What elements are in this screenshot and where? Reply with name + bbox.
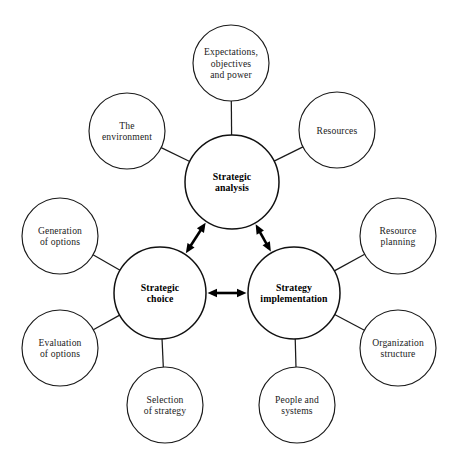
spoke-resources — [274, 147, 303, 161]
spoke-organization-structure — [335, 315, 365, 331]
node-strategy-implementation[interactable]: Strategyimplementation — [248, 247, 340, 339]
label-resource-planning: Resourceplanning — [380, 225, 417, 247]
node-selection-of-strategy[interactable]: Selectionof strategy — [127, 367, 203, 443]
label-people-and-systems: People andsystems — [275, 394, 319, 416]
spoke-the-environment — [161, 148, 190, 162]
connector-analysis-choice — [186, 223, 206, 253]
node-resource-planning[interactable]: Resourceplanning — [360, 198, 436, 274]
nodes-group: Expectations,objectivesand powerTheenvir… — [22, 25, 436, 443]
spoke-generation-of-options — [93, 255, 120, 270]
node-strategic-analysis[interactable]: Strategicanalysis — [185, 135, 279, 229]
connector-analysis-implementation — [256, 224, 271, 251]
arrow-head-end-choice-implementation — [237, 289, 247, 297]
label-strategic-analysis: Strategicanalysis — [213, 171, 252, 194]
label-selection-of-strategy: Selectionof strategy — [144, 394, 186, 416]
spoke-evaluation-of-options — [93, 315, 119, 330]
label-expectations-objectives-and-power: Expectations,objectivesand power — [204, 46, 258, 80]
node-generation-of-options[interactable]: Generationof options — [22, 198, 98, 274]
node-people-and-systems[interactable]: People andsystems — [259, 367, 335, 443]
node-the-environment[interactable]: Theenvironment — [89, 93, 165, 169]
node-resources[interactable]: Resources — [299, 92, 375, 168]
node-expectations-objectives-and-power[interactable]: Expectations,objectivesand power — [193, 25, 269, 101]
label-resources: Resources — [317, 125, 358, 136]
spoke-selection-of-strategy — [162, 339, 163, 367]
arrow-head-start-choice-implementation — [208, 289, 218, 297]
node-evaluation-of-options[interactable]: Evaluationof options — [22, 310, 98, 386]
label-generation-of-options: Generationof options — [38, 225, 82, 247]
label-evaluation-of-options: Evaluationof options — [38, 337, 81, 359]
strategy-model-diagram: Expectations,objectivesand powerTheenvir… — [0, 0, 457, 468]
node-organization-structure[interactable]: Organizationstructure — [360, 310, 436, 386]
spoke-people-and-systems — [295, 339, 296, 367]
diagram-canvas: Expectations,objectivesand powerTheenvir… — [0, 0, 457, 468]
connector-choice-implementation — [208, 289, 247, 297]
spoke-resource-planning — [334, 254, 364, 271]
node-strategic-choice[interactable]: Strategicchoice — [114, 247, 206, 339]
